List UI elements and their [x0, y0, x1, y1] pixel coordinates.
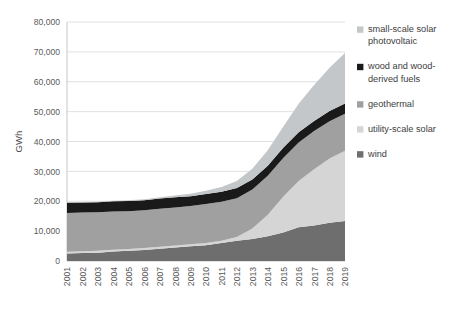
y-axis-tick-label: 20,000	[34, 196, 61, 206]
y-axis-tick-label: 60,000	[34, 77, 61, 87]
y-axis-tick-label: 30,000	[34, 167, 61, 177]
x-axis-tick-label: 2007	[155, 267, 165, 286]
y-axis-tick-label: 50,000	[34, 107, 61, 117]
legend-label: derived fuels	[368, 74, 420, 84]
legend-swatch	[357, 26, 363, 32]
y-axis-tick-label: 80,000	[34, 17, 61, 27]
x-axis-tick-label: 2004	[109, 267, 119, 286]
y-axis-title: GWh	[13, 131, 24, 153]
x-axis-tick-label: 2011	[217, 267, 227, 286]
x-axis-tick-label: 2002	[78, 267, 88, 286]
legend-item[interactable]: wood and wood-derived fuels	[357, 61, 435, 83]
x-axis-tick-label: 2015	[279, 267, 289, 286]
x-axis-tick-label: 2001	[62, 267, 72, 286]
x-axis-tick-label: 2008	[171, 267, 181, 286]
x-axis-tick-label: 2017	[310, 267, 320, 286]
stacked-area-chart: 010,00020,00030,00040,00050,00060,00070,…	[0, 0, 459, 315]
legend-label: wood and wood-	[367, 61, 435, 71]
legend-label: wind	[367, 149, 387, 159]
x-axis-tick-label: 2012	[232, 267, 242, 286]
x-axis-tick-label: 2013	[248, 267, 258, 286]
x-axis-tick-label: 2019	[340, 267, 350, 286]
y-axis-tick-label: 10,000	[34, 226, 61, 236]
legend-swatch	[357, 64, 363, 70]
legend-item[interactable]: utility-scale solar	[357, 124, 436, 134]
legend-swatch	[357, 126, 363, 132]
y-axis-tick-label: 70,000	[34, 47, 61, 57]
x-axis-tick-label: 2018	[325, 267, 335, 286]
legend-label: geothermal	[368, 99, 414, 109]
legend-swatch	[357, 101, 363, 107]
legend-swatch	[357, 151, 363, 157]
x-axis-tick-label: 2010	[201, 267, 211, 286]
chart-canvas: 010,00020,00030,00040,00050,00060,00070,…	[0, 0, 459, 315]
x-axis-tick-label: 2003	[93, 267, 103, 286]
x-axis-tick-label: 2006	[140, 267, 150, 286]
x-axis-tick-label: 2016	[294, 267, 304, 286]
legend-label: photovoltaic	[368, 36, 417, 46]
x-axis-tick-label: 2009	[186, 267, 196, 286]
y-axis-tick-label: 40,000	[34, 137, 61, 147]
x-axis-tick-label: 2005	[124, 267, 134, 286]
y-axis-tick-label: 0	[55, 256, 60, 266]
legend-item[interactable]: wind	[357, 149, 387, 159]
legend-label: small-scale solar	[368, 24, 436, 34]
legend-item[interactable]: geothermal	[357, 99, 414, 109]
x-axis-tick-label: 2014	[263, 267, 273, 286]
legend-item[interactable]: small-scale solarphotovoltaic	[357, 24, 436, 46]
legend-label: utility-scale solar	[368, 124, 436, 134]
